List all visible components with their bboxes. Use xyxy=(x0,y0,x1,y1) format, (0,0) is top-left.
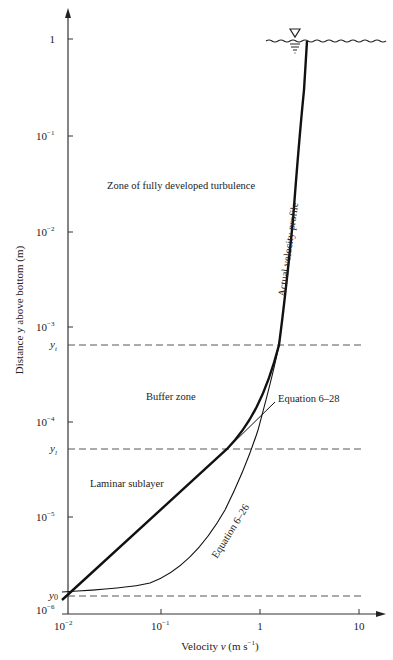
y-tick-labels: 1 10−1 10−2 10−3 10−4 10−5 10−6 yt yl y0 xyxy=(36,33,58,616)
y-tick-1e-2: 10−2 xyxy=(36,225,55,238)
x-tick-1: 1 xyxy=(257,620,263,632)
y-t-label: yt xyxy=(49,338,58,353)
axes xyxy=(62,14,380,614)
x-tick-1e-2: 10−2 xyxy=(54,619,73,632)
equation-6-28-curve xyxy=(227,402,275,449)
y-tick-1e-6: 10−6 xyxy=(36,603,55,616)
equation-6-26-label: Equation 6–26 xyxy=(209,502,251,560)
y-tick-1e-5: 10−5 xyxy=(36,510,55,523)
y-0-label: y0 xyxy=(48,589,58,602)
x-axis-label: Velocity v (m s−1) xyxy=(181,639,259,653)
water-level-triangle-icon xyxy=(290,29,300,37)
zone-laminar-label: Laminar sublayer xyxy=(90,478,164,489)
y-tick-1e-1: 10−1 xyxy=(36,129,55,142)
velocity-profile-chart: 1 10−1 10−2 10−3 10−4 10−5 10−6 yt yl y0… xyxy=(0,0,393,660)
y-tick-1: 1 xyxy=(50,33,56,45)
annotations: Zone of fully developed turbulence Buffe… xyxy=(90,180,340,560)
y-axis-label: Distance y above bottom (m) xyxy=(13,246,26,375)
x-tick-labels: 10−2 10−1 1 10 xyxy=(54,619,365,632)
y-axis-arrow-icon xyxy=(65,8,71,18)
x-axis-arrow-icon xyxy=(376,611,386,617)
water-surface-line xyxy=(266,40,386,42)
y-ticks xyxy=(68,39,73,517)
y-tick-1e-4: 10−4 xyxy=(36,415,55,428)
equation-6-28-label: Equation 6–28 xyxy=(278,393,340,404)
zone-buffer-label: Buffer zone xyxy=(146,391,196,402)
water-surface xyxy=(266,29,386,53)
water-level-ticks-icon xyxy=(290,44,300,53)
y-tick-1e-3: 10−3 xyxy=(36,320,55,333)
zone-turbulence-label: Zone of fully developed turbulence xyxy=(107,180,255,191)
x-ticks xyxy=(161,609,359,614)
y-l-label: yl xyxy=(49,442,57,457)
actual-velocity-profile-curve xyxy=(62,41,307,600)
actual-velocity-profile-label: Actual velocity profile xyxy=(276,201,300,297)
x-tick-1e-1: 10−1 xyxy=(151,619,170,632)
x-tick-10: 10 xyxy=(354,620,366,632)
equation-6-26-curve xyxy=(62,345,279,592)
